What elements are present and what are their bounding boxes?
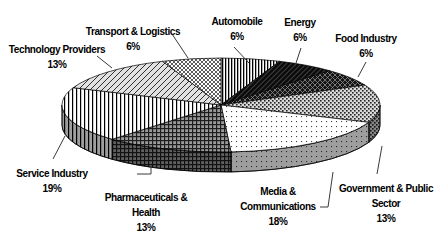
- slice-label-government-public-sector: Government & PublicSector13%: [339, 181, 433, 226]
- slice-label-percent: 13%: [9, 57, 105, 72]
- slice-label-text: Automobile: [212, 14, 263, 29]
- leader-line-service-industry: [53, 136, 65, 159]
- pie-chart-figure: Automobile6%Energy6%Food Industry6%Gover…: [0, 0, 439, 241]
- slice-label-text: Health: [105, 205, 188, 220]
- leader-line-pharmaceuticals-health: [137, 167, 151, 174]
- pie-top-faces: [62, 58, 380, 152]
- slice-label-percent: 6%: [212, 29, 263, 44]
- slice-label-text: Energy: [284, 15, 316, 30]
- slice-label-text: Service Industry: [16, 166, 87, 181]
- slice-label-percent: 6%: [86, 39, 180, 54]
- slice-label-text: Transport & Logistics: [86, 24, 180, 39]
- slice-label-text: Media &: [240, 184, 316, 199]
- slice-label-pharmaceuticals-health: Pharmaceuticals &Health13%: [105, 190, 188, 235]
- slice-label-transport-logistics: Transport & Logistics6%: [86, 24, 180, 54]
- leader-line-government-public-sector: [377, 146, 382, 174]
- slice-label-percent: 13%: [105, 220, 188, 235]
- slice-label-percent: 6%: [284, 30, 316, 45]
- slice-label-percent: 6%: [335, 46, 396, 61]
- leader-line-energy: [295, 48, 301, 66]
- slice-label-service-industry: Service Industry19%: [16, 166, 87, 196]
- slice-label-automobile: Automobile6%: [212, 14, 263, 44]
- slice-label-text: Pharmaceuticals &: [105, 190, 188, 205]
- leader-line-media-communications: [320, 172, 333, 207]
- slice-label-text: Communications: [240, 199, 316, 214]
- slice-label-text: Food Industry: [335, 31, 396, 46]
- slice-label-media-communications: Media &Communications18%: [240, 184, 316, 229]
- slice-label-energy: Energy6%: [284, 15, 316, 45]
- slice-label-text: Sector: [339, 196, 433, 211]
- slice-label-percent: 13%: [339, 211, 433, 226]
- leader-line-food-industry: [358, 62, 366, 77]
- slice-label-food-industry: Food Industry6%: [335, 31, 396, 61]
- slice-label-percent: 18%: [240, 214, 316, 229]
- slice-label-text: Government & Public: [339, 181, 433, 196]
- slice-label-percent: 19%: [16, 181, 87, 196]
